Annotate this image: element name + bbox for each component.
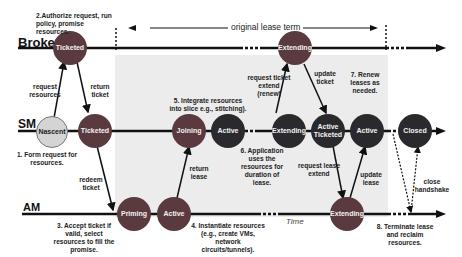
- arrow-label-update-ticket: update ticket: [312, 70, 338, 86]
- arrow-label-close-handshake: close handshake: [414, 178, 450, 194]
- node-sm-extending: Extending: [272, 114, 306, 148]
- node-sm-active-2: Active: [350, 114, 384, 148]
- node-sm-active-ticketed: Active Ticketed: [311, 114, 345, 148]
- annotation-step-4: 4. Instantiate resources (e.g., create V…: [190, 222, 266, 254]
- arrow-label-return-lease: return lease: [186, 165, 212, 181]
- node-am-priming: Priming: [117, 197, 151, 231]
- node-sm-active: Active: [211, 114, 245, 148]
- annotation-step-5: 5. Integrate resources into slice e.g., …: [168, 97, 248, 113]
- arrow-label-request-lease-extend: request lease extend: [296, 162, 342, 178]
- node-sm-nascent: Nascent: [36, 116, 68, 148]
- node-sm-closed: Closed: [398, 114, 432, 148]
- annotation-step-3: 3. Accept ticket if valid, select resour…: [50, 222, 118, 254]
- arrow-label-redeem-ticket: redeem ticket: [78, 176, 104, 192]
- annotation-step-7: 7. Renew leases as needed.: [350, 71, 380, 95]
- node-am-extending: Extending: [330, 197, 364, 231]
- node-sm-joining: Joining: [172, 114, 206, 148]
- annotation-step-1: 1. Form request for resources.: [16, 151, 78, 167]
- arrow-label-request-ticket-extend: request ticket extend (renew): [246, 74, 292, 98]
- lane-label-sm: SM: [18, 117, 36, 131]
- node-broker-extending: Extending: [278, 31, 312, 65]
- annotation-step-2: 2.Authorize request, run policy, promise…: [36, 12, 116, 36]
- node-sm-ticketed: Ticketed: [78, 114, 112, 148]
- node-broker-ticketed: Ticketed: [53, 31, 87, 65]
- lane-label-am: AM: [23, 201, 40, 213]
- arrow-label-update-lease: update lease: [358, 171, 384, 187]
- annotation-step-6: 6. Application uses the resources for du…: [237, 147, 287, 187]
- arrow-label-return-ticket: return ticket: [86, 83, 114, 99]
- node-am-active: Active: [157, 197, 191, 231]
- annotation-step-8: 8. Terminate lease and reclaim resources…: [370, 223, 440, 247]
- arrow-label-request-resources: request resources: [28, 83, 62, 99]
- time-axis-label: Time: [286, 217, 304, 226]
